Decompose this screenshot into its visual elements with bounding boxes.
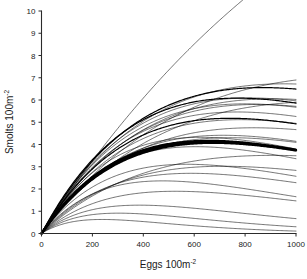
x-axis-title-superscript: -2 [190, 258, 196, 265]
y-tick-label: 10 [27, 7, 36, 16]
curve-curve-02-top [42, 0, 297, 234]
x-axis-title-main: Eggs 100m [140, 259, 191, 270]
y-axis-title: Smolts 100m-2 [3, 90, 15, 155]
x-tick-label: 400 [137, 240, 151, 249]
curve-curve-16-thickband [42, 143, 297, 234]
y-tick-label: 8 [31, 52, 36, 61]
curve-curve-08-dense [42, 104, 297, 234]
curve-curve-07 [42, 137, 297, 233]
stock-recruitment-plot: 012345678910 02004006008001000 Eggs 100m… [0, 0, 307, 279]
y-axis-title-superscript: -2 [3, 90, 10, 96]
axis-titles: Eggs 100m-2 Smolts 100m-2 [3, 90, 197, 270]
x-tick-label: 0 [39, 240, 44, 249]
x-tick-label: 200 [86, 240, 100, 249]
chart-figure: 012345678910 02004006008001000 Eggs 100m… [0, 0, 307, 279]
curve-curve-15-thickband [42, 141, 297, 234]
axis-lines [42, 11, 297, 234]
y-tick-label: 5 [31, 118, 36, 127]
x-tick-label: 1000 [287, 240, 305, 249]
curve-curve-18 [42, 102, 297, 233]
curve-curve-26-lowest [42, 219, 297, 233]
curve-curve-01-highest [42, 80, 297, 233]
curve-curve-25 [42, 213, 297, 233]
x-axis-ticks: 02004006008001000 [39, 234, 305, 249]
curve-curve-24 [42, 205, 297, 233]
y-tick-label: 3 [31, 163, 36, 172]
x-tick-label: 600 [188, 240, 202, 249]
curve-curve-27-dense [42, 112, 297, 234]
y-tick-label: 7 [31, 74, 36, 83]
y-tick-label: 4 [31, 141, 36, 150]
y-tick-label: 0 [31, 230, 36, 239]
curve-curve-11-dense [42, 104, 297, 233]
x-axis-title: Eggs 100m-2 [140, 258, 197, 270]
x-tick-label: 800 [238, 240, 252, 249]
curves-group [42, 0, 297, 234]
curve-curve-05-band-upper [42, 88, 297, 234]
y-tick-label: 1 [31, 207, 36, 216]
y-tick-label: 9 [31, 29, 36, 38]
y-axis-ticks: 012345678910 [27, 7, 42, 239]
y-tick-label: 2 [31, 185, 36, 194]
y-axis-title-main: Smolts 100m [4, 96, 15, 154]
y-tick-label: 6 [31, 96, 36, 105]
curve-curve-23 [42, 191, 297, 233]
curve-curve-06 [42, 84, 297, 234]
